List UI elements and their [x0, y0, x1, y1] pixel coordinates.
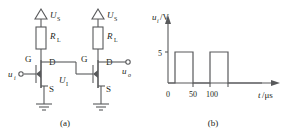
- x-tick-label-0: 0: [166, 90, 170, 99]
- supply-arrow-icon-right: [92, 9, 104, 27]
- panel-a-caption: (a): [60, 118, 70, 128]
- ground-icon-left: [36, 104, 52, 110]
- y-axis-unit: /V: [160, 12, 170, 22]
- x-axis: [168, 80, 280, 86]
- resistor-label-left: R: [49, 31, 56, 41]
- figure-container: U S R L G D S u i: [0, 0, 297, 134]
- gate-label-right: G: [81, 54, 88, 64]
- mosfet-icon-left: [24, 60, 48, 88]
- mid-label: U: [59, 75, 66, 85]
- mid-sub: I: [66, 81, 68, 87]
- gate-label-left: G: [25, 54, 32, 64]
- source-label-left: S: [49, 84, 54, 94]
- x-axis-unit: /μs: [262, 90, 273, 100]
- waveform-trace: [168, 52, 262, 83]
- panel-a-circuit-diagram: U S R L G D S u i: [0, 0, 150, 134]
- x-tick-label-50: 50: [189, 90, 197, 99]
- resistor-icon-left: [36, 27, 46, 49]
- terminal-node-icon-output: [126, 60, 130, 64]
- supply-sub-right: S: [114, 16, 117, 22]
- panel-b-caption: (b): [208, 118, 219, 128]
- y-axis: [165, 15, 171, 83]
- supply-label-left: U: [50, 10, 57, 20]
- resistor-label-right: R: [106, 31, 113, 41]
- supply-sub-left: S: [57, 16, 60, 22]
- terminal-node-icon-input: [19, 72, 23, 76]
- x-tick-label-100: 100: [206, 90, 218, 99]
- y-axis-label-sub: i: [157, 18, 159, 24]
- output-label: u: [122, 66, 127, 76]
- ground-icon-right: [93, 104, 109, 110]
- resistor-sub-left: L: [57, 37, 61, 43]
- input-label: u: [8, 69, 13, 79]
- input-sub: i: [14, 75, 16, 81]
- y-tick-label-5: 5: [158, 49, 162, 58]
- resistor-sub-right: L: [114, 37, 118, 43]
- supply-arrow-icon-left: [35, 9, 47, 27]
- x-axis-label: t: [258, 90, 261, 100]
- source-label-right: S: [106, 84, 111, 94]
- resistor-icon-right: [93, 27, 103, 49]
- output-sub: o: [128, 72, 131, 78]
- supply-label-right: U: [107, 10, 114, 20]
- panel-b-waveform-chart: u i /V t /μs 5 0 50 100 (b): [150, 0, 297, 134]
- mosfet-icon-right: [88, 60, 105, 88]
